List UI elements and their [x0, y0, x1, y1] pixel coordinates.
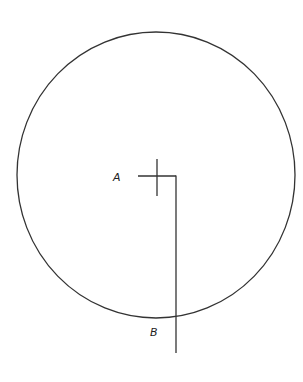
label-b: B [150, 326, 158, 339]
label-a: A [112, 171, 121, 184]
background [0, 0, 303, 382]
diagram-canvas: A B [0, 0, 303, 382]
